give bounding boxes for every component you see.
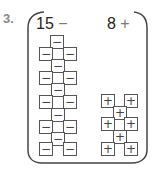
positive-tile: + [124,117,138,131]
negative-tile: − [63,47,77,61]
negative-group-label: 15 − [36,16,68,32]
minus-sign-icon: − [58,15,67,32]
negative-tile: − [39,142,53,156]
positive-tile: + [101,117,115,131]
negative-tile: − [63,95,77,109]
negative-tile: − [63,120,77,134]
negative-count: 15 [36,15,54,32]
positive-group-label: 8 + [107,16,130,32]
positive-count: 8 [107,15,116,32]
positive-tile: + [124,142,138,156]
negative-tile: − [63,71,77,85]
negative-tile: − [63,142,77,156]
plus-sign-icon: + [120,15,129,32]
negative-tile: − [39,95,53,109]
positive-tile: + [101,142,115,156]
